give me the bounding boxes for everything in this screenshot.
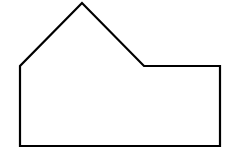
hexagon-outline xyxy=(20,3,220,146)
polygon-figure xyxy=(0,0,233,159)
shape-canvas xyxy=(0,0,233,159)
